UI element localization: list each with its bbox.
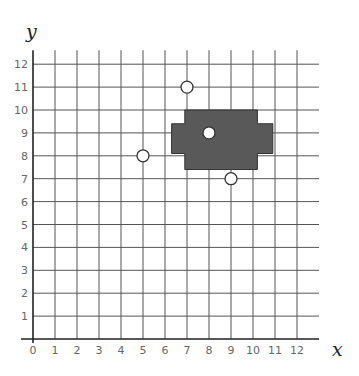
y-tick-label: 11: [14, 81, 28, 94]
x-axis-label: x: [332, 338, 343, 360]
y-tick-label: 10: [14, 104, 28, 117]
y-tick-label: 8: [21, 150, 28, 163]
y-tick-label: 2: [21, 287, 28, 300]
data-point-circle: [181, 81, 193, 93]
data-point-circle: [137, 150, 149, 162]
y-tick-labels: 123456789101112: [14, 58, 28, 323]
x-tick-label: 12: [290, 344, 304, 357]
y-tick-label: 9: [21, 127, 28, 140]
x-tick-label: 11: [268, 344, 282, 357]
y-tick-label: 12: [14, 58, 28, 71]
grid-lines: [33, 50, 319, 339]
shaded-region: [172, 110, 273, 170]
x-tick-label: 8: [206, 344, 213, 357]
x-tick-label: 4: [118, 344, 125, 357]
x-tick-label: 9: [228, 344, 235, 357]
y-tick-label: 6: [21, 196, 28, 209]
data-point-circle: [203, 127, 215, 139]
y-tick-label: 3: [21, 264, 28, 277]
y-tick-label: 7: [21, 173, 28, 186]
y-tick-label: 1: [21, 310, 28, 323]
x-tick-label: 3: [96, 344, 103, 357]
y-tick-label: 5: [21, 219, 28, 232]
axes: [21, 50, 319, 343]
x-tick-label: 1: [52, 344, 59, 357]
x-tick-label: 6: [162, 344, 169, 357]
x-tick-label: 2: [74, 344, 81, 357]
shaded-polygon: [172, 110, 273, 170]
data-point-circle: [225, 173, 237, 185]
coordinate-plane: 0123456789101112 123456789101112 x y: [0, 0, 359, 376]
y-axis-label: y: [25, 20, 37, 42]
x-tick-labels: 0123456789101112: [30, 344, 305, 357]
y-tick-label: 4: [21, 241, 28, 254]
x-tick-label: 7: [184, 344, 191, 357]
x-tick-label: 10: [246, 344, 260, 357]
x-tick-label: 5: [140, 344, 147, 357]
x-tick-label: 0: [30, 344, 37, 357]
